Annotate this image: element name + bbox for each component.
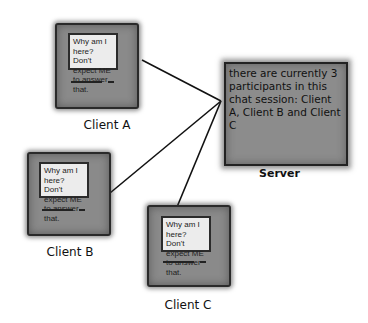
- client-c-drive-slot: [163, 261, 194, 263]
- client-b-screen: Why am I here? Don't expect ME to answer…: [39, 162, 89, 198]
- client-a-screen: Why am I here? Don't expect ME to answer…: [68, 33, 118, 70]
- client-c-screen: Why am I here? Don't expect ME to answer…: [161, 216, 211, 252]
- line-client-c-server: [177, 101, 221, 207]
- server-message: there are currently 3 participants in th…: [229, 67, 341, 132]
- line-client-a-server: [142, 60, 221, 101]
- client-a-power-light: [108, 81, 114, 83]
- client-c-label: Client C: [143, 298, 233, 312]
- line-client-b-server: [110, 101, 221, 193]
- client-b-label: Client B: [25, 245, 115, 259]
- client-a-label: Client A: [62, 118, 152, 132]
- server-label: Server: [259, 167, 319, 180]
- client-a-drive-slot: [71, 81, 102, 83]
- client-c-power-light: [200, 261, 206, 263]
- client-b-drive-slot: [42, 209, 73, 211]
- client-b-power-light: [79, 209, 85, 211]
